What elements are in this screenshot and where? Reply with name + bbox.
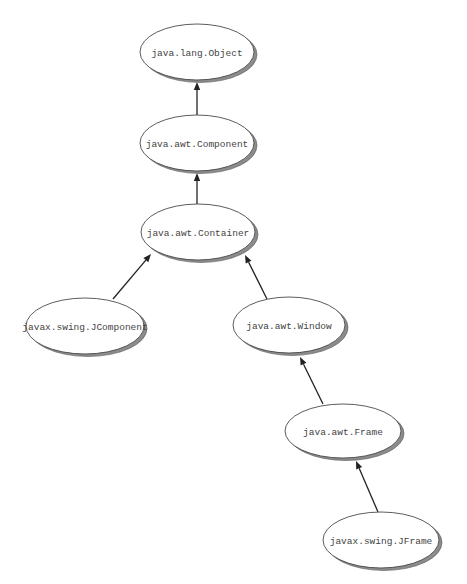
- inheritance-arrow-jframe-to-frame: [356, 461, 378, 512]
- arrow-line: [113, 260, 146, 299]
- inheritance-arrow-container-to-component: [194, 173, 200, 204]
- arrow-line: [249, 262, 267, 299]
- class-node-jframe: javax.swing.JFrame: [323, 512, 442, 571]
- inheritance-arrow-component-to-object: [194, 82, 200, 115]
- node-label: java.awt.Component: [146, 139, 249, 150]
- class-node-jcomponent: javax.swing.JComponent: [22, 298, 147, 357]
- class-node-frame: java.awt.Frame: [285, 404, 404, 461]
- inheritance-diagram: java.lang.Objectjava.awt.Componentjava.a…: [0, 0, 467, 584]
- node-label: javax.swing.JComponent: [22, 322, 147, 333]
- node-label: javax.swing.JFrame: [330, 536, 433, 547]
- inheritance-arrow-frame-to-window: [300, 357, 323, 404]
- node-label: java.awt.Frame: [303, 427, 383, 438]
- node-label: java.lang.Object: [151, 48, 242, 59]
- arrowhead-icon: [300, 357, 306, 366]
- nodes-layer: java.lang.Objectjava.awt.Componentjava.a…: [22, 24, 442, 571]
- class-node-component: java.awt.Component: [140, 115, 257, 174]
- arrowhead-icon: [194, 82, 200, 90]
- arrowhead-icon: [245, 255, 251, 264]
- arrow-line: [304, 364, 323, 404]
- arrowhead-icon: [356, 461, 362, 470]
- node-label: java.awt.Container: [147, 228, 250, 239]
- arrowhead-icon: [194, 173, 200, 181]
- inheritance-arrow-window-to-container: [245, 255, 267, 299]
- class-node-object: java.lang.Object: [140, 24, 257, 83]
- node-label: java.awt.Window: [246, 321, 332, 332]
- arrow-line: [359, 468, 378, 512]
- class-node-container: java.awt.Container: [141, 204, 258, 263]
- inheritance-arrow-jcomponent-to-container: [113, 254, 151, 299]
- class-node-window: java.awt.Window: [233, 297, 348, 356]
